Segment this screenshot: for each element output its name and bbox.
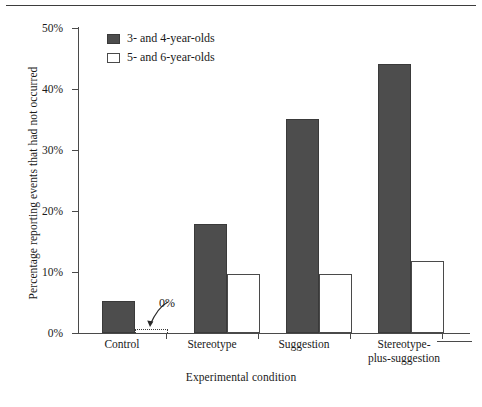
legend-label: 3- and 4-year-olds xyxy=(127,31,215,46)
plot-area: 0% 10% 20% 30% 40% 50% Control Stereotyp… xyxy=(78,27,470,334)
bar-dark-1 xyxy=(194,224,227,333)
x-category-label-control: Control xyxy=(84,338,160,352)
y-tick-label-0: 0% xyxy=(48,327,63,339)
x-separator-2 xyxy=(258,334,259,339)
y-tick-20: 20% xyxy=(72,211,79,212)
bar-light-1 xyxy=(227,274,260,333)
bar-dark-0 xyxy=(102,301,135,333)
y-tick-0: 0% xyxy=(72,333,79,334)
legend: 3- and 4-year-olds 5- and 6-year-olds xyxy=(107,30,215,68)
legend-item-3-and-4-year-olds: 3- and 4-year-olds xyxy=(107,30,215,47)
x-separator-3 xyxy=(350,334,351,339)
bar-dark-2 xyxy=(286,119,319,333)
y-tick-label-20: 20% xyxy=(42,205,63,217)
x-category-label-suggestion: Suggestion xyxy=(266,338,342,352)
legend-swatch-open-square-icon xyxy=(107,53,120,63)
x-category-line-1: Suggestion xyxy=(266,338,342,352)
zero-annotation-label: 0% xyxy=(159,296,175,311)
bar-dark-3 xyxy=(378,64,411,333)
x-separator-1 xyxy=(166,334,167,339)
legend-label: 5- and 6-year-olds xyxy=(127,50,215,65)
legend-item-5-and-6-year-olds: 5- and 6-year-olds xyxy=(107,49,215,66)
page-rule-top xyxy=(6,5,476,6)
x-category-line-2: plus-suggestion xyxy=(354,352,454,366)
x-category-line-1: Stereotype- xyxy=(354,338,454,352)
y-axis-line xyxy=(78,27,79,334)
x-category-line-1: Control xyxy=(84,338,160,352)
y-tick-label-40: 40% xyxy=(42,83,63,95)
y-tick-10: 10% xyxy=(72,272,79,273)
y-tick-label-30: 30% xyxy=(42,144,63,156)
x-category-label-stereotype: Stereotype xyxy=(174,338,250,352)
y-tick-label-50: 50% xyxy=(42,22,63,34)
bar-light-3 xyxy=(411,261,444,333)
x-axis-title: Experimental condition xyxy=(0,371,482,383)
y-tick-30: 30% xyxy=(72,150,79,151)
legend-swatch-filled-square-icon xyxy=(107,34,120,44)
x-category-line-1: Stereotype xyxy=(174,338,250,352)
x-category-label-stereotype-plus-suggestion: Stereotype- plus-suggestion xyxy=(354,338,454,365)
y-tick-40: 40% xyxy=(72,89,79,90)
y-tick-label-10: 10% xyxy=(42,266,63,278)
y-tick-50: 50% xyxy=(72,28,79,29)
x-axis-line xyxy=(78,333,470,334)
y-axis-title: Percentage reporting events that had not… xyxy=(22,23,44,343)
bar-chart-figure: Percentage reporting events that had not… xyxy=(0,0,482,407)
bar-light-2 xyxy=(319,274,352,333)
